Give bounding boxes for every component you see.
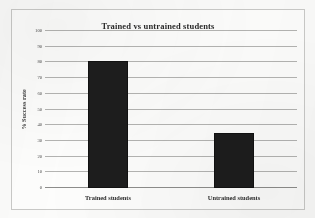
x-axis-label: Trained students [85, 194, 131, 201]
y-tick-label: 60 [37, 90, 42, 95]
gridline: 50 [45, 109, 297, 110]
gridline: 60 [45, 93, 297, 94]
gridline: 10 [45, 171, 297, 172]
bar [214, 133, 254, 188]
y-axis-title: % Success rate [20, 75, 27, 145]
chart-frame: Trained vs untrained students % Success … [11, 9, 305, 210]
y-tick-label: 90 [37, 43, 42, 48]
y-tick-label: 10 [37, 169, 42, 174]
gridline: 70 [45, 77, 297, 78]
gridline: 80 [45, 61, 297, 62]
chart-screenshot: Trained vs untrained students % Success … [0, 0, 315, 218]
x-axis-label: Untrained students [208, 194, 260, 201]
gridline: 100 [45, 30, 297, 31]
gridline: 40 [45, 124, 297, 125]
y-tick-label: 100 [35, 28, 42, 33]
gridline: 20 [45, 156, 297, 157]
y-tick-label: 0 [40, 185, 42, 190]
y-tick-label: 50 [37, 106, 42, 111]
plot-area: 1009080706050403020100 Trained studentsU… [45, 31, 297, 188]
y-tick-label: 40 [37, 122, 42, 127]
y-tick-label: 20 [37, 153, 42, 158]
bar [88, 61, 128, 188]
x-axis-line: 0 [45, 187, 297, 188]
y-tick-label: 30 [37, 137, 42, 142]
y-tick-label: 70 [37, 75, 42, 80]
gridline: 90 [45, 46, 297, 47]
y-tick-label: 80 [37, 59, 42, 64]
gridline: 30 [45, 140, 297, 141]
